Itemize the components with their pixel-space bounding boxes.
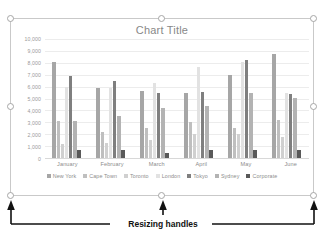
chart-title[interactable]: Chart Title — [11, 24, 313, 36]
y-axis-tick-label: 2,000 — [28, 132, 41, 138]
resize-handle-bottom-left[interactable] — [7, 192, 14, 199]
resize-handle-top-left[interactable] — [7, 15, 14, 22]
y-axis: 10,0009,0008,0007,0006,0005,0004,0003,00… — [13, 39, 43, 159]
x-axis-category-label: June — [268, 161, 313, 167]
bar-group — [96, 39, 125, 158]
legend-swatch-icon — [47, 174, 51, 178]
resize-handle-top-middle[interactable] — [158, 15, 165, 22]
bar[interactable] — [281, 137, 284, 158]
bar-groups — [45, 39, 309, 158]
bar[interactable] — [121, 150, 124, 158]
y-axis-tick-label: 8,000 — [28, 60, 41, 66]
bar[interactable] — [237, 134, 240, 158]
bar[interactable] — [113, 81, 116, 158]
bar[interactable] — [145, 128, 148, 158]
y-axis-tick-label: 4,000 — [28, 108, 41, 114]
bar[interactable] — [201, 92, 204, 158]
legend-item[interactable]: Corporate — [246, 173, 277, 179]
bar[interactable] — [77, 150, 80, 158]
legend-item[interactable]: Tokyo — [187, 173, 208, 179]
resize-handle-bottom-right[interactable] — [310, 192, 317, 199]
bar[interactable] — [69, 76, 72, 158]
bar[interactable] — [184, 93, 187, 158]
bar[interactable] — [197, 67, 200, 158]
arrow-bottom-right — [212, 200, 318, 224]
bar[interactable] — [193, 134, 196, 158]
bar[interactable] — [149, 140, 152, 158]
bar[interactable] — [117, 116, 120, 158]
annotation-label: Resizing handles — [124, 219, 201, 229]
legend-swatch-icon — [246, 174, 250, 178]
x-axis-category-label: January — [45, 161, 90, 167]
bar[interactable] — [157, 93, 160, 158]
x-axis: JanuaryFebruaryMarchAprilMayJune — [45, 161, 313, 167]
legend-label: New York — [53, 173, 77, 179]
legend-label: Cape Town — [89, 173, 117, 179]
bar[interactable] — [241, 62, 244, 158]
plot-canvas — [45, 39, 309, 159]
y-axis-tick-label: 1,000 — [28, 144, 41, 150]
bar[interactable] — [61, 144, 64, 158]
legend-swatch-icon — [156, 174, 160, 178]
y-axis-tick-label: 9,000 — [28, 48, 41, 54]
bar[interactable] — [105, 143, 108, 158]
bar-group — [184, 39, 213, 158]
y-axis-tick-label: 10,000 — [25, 36, 41, 42]
bar[interactable] — [52, 62, 55, 158]
bar[interactable] — [101, 132, 104, 158]
bar[interactable] — [73, 121, 76, 158]
resize-handle-middle-left[interactable] — [7, 103, 14, 110]
legend-item[interactable]: Cape Town — [83, 173, 117, 179]
legend-swatch-icon — [83, 174, 87, 178]
y-axis-tick-label: 7,000 — [28, 72, 41, 78]
legend-swatch-icon — [215, 174, 219, 178]
legend-item[interactable]: Sydney — [215, 173, 240, 179]
bar[interactable] — [233, 128, 236, 158]
legend-item[interactable]: London — [156, 173, 181, 179]
bar[interactable] — [245, 60, 248, 158]
resize-handle-middle-right[interactable] — [310, 103, 317, 110]
legend-swatch-icon — [124, 174, 128, 178]
bar[interactable] — [297, 150, 300, 158]
bar[interactable] — [228, 75, 231, 158]
resize-handle-top-right[interactable] — [310, 15, 317, 22]
plot-area[interactable]: 10,0009,0008,0007,0006,0005,0004,0003,00… — [13, 39, 309, 159]
legend-label: London — [162, 173, 181, 179]
y-axis-tick-label: 0 — [38, 156, 41, 162]
legend-label: Toronto — [130, 173, 149, 179]
resize-handle-bottom-middle[interactable] — [158, 192, 165, 199]
bar[interactable] — [209, 150, 212, 158]
chart-legend[interactable]: New YorkCape TownTorontoLondonTokyoSydne… — [11, 173, 313, 179]
bar[interactable] — [65, 87, 68, 158]
bar[interactable] — [289, 94, 292, 158]
bar[interactable] — [253, 150, 256, 158]
bar[interactable] — [153, 83, 156, 158]
bar[interactable] — [205, 106, 208, 158]
bar-group — [272, 39, 301, 158]
chart-object[interactable]: Chart Title 10,0009,0008,0007,0006,0005,… — [10, 18, 314, 196]
y-axis-tick-label: 3,000 — [28, 120, 41, 126]
x-axis-category-label: April — [179, 161, 224, 167]
arrow-bottom-left — [7, 200, 110, 224]
bar-group — [52, 39, 81, 158]
bar[interactable] — [161, 108, 164, 158]
bar[interactable] — [96, 88, 99, 158]
bar[interactable] — [165, 153, 168, 158]
bar-group — [140, 39, 169, 158]
bar[interactable] — [249, 93, 252, 158]
legend-item[interactable]: Toronto — [124, 173, 149, 179]
bar[interactable] — [285, 93, 288, 158]
bar[interactable] — [140, 91, 143, 158]
legend-swatch-icon — [187, 174, 191, 178]
legend-item[interactable]: New York — [47, 173, 77, 179]
bar[interactable] — [272, 54, 275, 158]
y-axis-tick-label: 5,000 — [28, 96, 41, 102]
bar[interactable] — [57, 121, 60, 158]
legend-label: Sydney — [221, 173, 240, 179]
x-axis-category-label: May — [224, 161, 269, 167]
legend-label: Tokyo — [193, 173, 208, 179]
bar[interactable] — [109, 88, 112, 158]
bar[interactable] — [277, 120, 280, 158]
bar[interactable] — [189, 122, 192, 158]
bar[interactable] — [293, 98, 296, 158]
